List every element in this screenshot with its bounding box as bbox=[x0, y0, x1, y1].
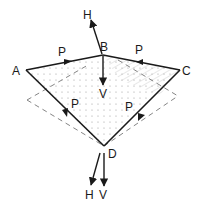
force-label-bottom-V: V bbox=[99, 188, 107, 202]
edge-label-CB: P bbox=[135, 43, 143, 57]
force-label-top-H: H bbox=[83, 8, 92, 22]
force-arrow-bottom-H bbox=[91, 153, 100, 185]
force-label-bottom-H: H bbox=[85, 188, 94, 202]
arrowhead-AD-icon bbox=[62, 108, 68, 117]
edge-label-CD: P bbox=[125, 100, 133, 114]
edge-label-AB: P bbox=[58, 45, 66, 59]
cable-net-diagram: A B C D P P P P H V H V bbox=[0, 0, 197, 205]
point-label-D: D bbox=[108, 147, 117, 161]
point-label-A: A bbox=[12, 64, 20, 78]
edge-label-AD: P bbox=[71, 97, 79, 111]
point-label-C: C bbox=[182, 64, 191, 78]
arrowhead-CD-icon bbox=[138, 113, 145, 121]
force-label-top-V: V bbox=[99, 87, 107, 101]
point-label-B: B bbox=[100, 40, 108, 54]
